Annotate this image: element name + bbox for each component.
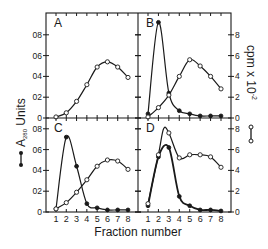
x-tick-label: 5 [187,214,192,224]
panel-label: A [54,16,62,30]
x-tick-label: 3 [166,214,171,224]
filled-data-point [219,114,223,118]
y-tick-label-left: 04 [33,71,43,81]
x-tick-label: 6 [198,214,203,224]
y-tick-label-right: 0 [235,207,240,217]
open-data-point [177,74,181,78]
open-data-point [74,190,78,194]
y-tick-label-left: 04 [33,165,43,175]
filled-data-point [198,208,202,212]
y-tick-label-right: 6 [235,145,240,155]
open-data-point [167,93,171,97]
filled-data-point [188,204,192,208]
ylabel-tail: Units [14,98,28,129]
ylabel-right-sup: -2 [251,94,258,100]
open-data-point [116,65,120,69]
panel-c: 12345678002040608C [33,118,141,224]
panel-d: 1234567802468D [135,118,240,224]
y-tick-label-left: 0 [37,113,42,123]
open-data-point [64,111,68,115]
y-tick-label-right: 4 [235,165,240,175]
x-tick-label: 1 [145,214,150,224]
open-data-point [198,64,202,68]
panel-b: 02468B [135,13,240,123]
cpm-curve [148,127,221,204]
open-data-point [64,201,68,205]
open-data-point [105,60,109,64]
open-data-point [208,74,212,78]
open-data-point [54,207,58,211]
open-data-point [146,202,150,206]
x-tick-label: 7 [115,214,120,224]
open-data-point [156,153,160,157]
filled-data-point [209,114,213,118]
filled-data-point [209,208,213,212]
filled-data-point [75,164,79,168]
y-tick-label-left: 02 [33,92,43,102]
x-tick-label: 1 [53,214,58,224]
right-axis-label: cpm x 10-2 [244,45,258,143]
open-data-point [177,156,181,160]
left-axis-label: A280 Units [14,98,28,167]
filled-data-point [64,135,68,139]
open-data-point [105,158,109,162]
y-tick-label-left: 06 [33,51,43,61]
y-tick-label-right: 6 [235,51,240,61]
open-data-point [219,87,223,91]
y-tick-label-left: 06 [33,145,43,155]
open-data-point [126,167,130,171]
filled-data-point [219,209,223,213]
a280-curve [148,22,221,116]
filled-data-point [126,208,130,212]
open-data-point [85,83,89,87]
open-data-point [85,178,89,182]
ylabel-right-main: cpm x 10 [244,45,258,94]
filled-data-point [95,206,99,210]
filled-data-point [157,20,161,24]
filled-data-point [106,208,110,212]
open-data-point [188,58,192,62]
x-tick-label: 4 [84,214,89,224]
x-tick-label: 4 [177,214,182,224]
open-data-point [167,131,171,135]
panel-label: B [146,16,154,30]
svg-text:A280 Units: A280 Units [14,98,28,147]
y-tick-label-right: 8 [235,30,240,40]
open-data-point [95,65,99,69]
filled-data-point [177,195,181,199]
x-tick-label: 2 [156,214,161,224]
panels-group: 002040608A02468B12345678002040608C123456… [33,13,240,224]
filled-data-point [188,112,192,116]
panel-label: C [54,121,63,135]
panel-label: D [146,121,155,135]
open-data-point [156,106,160,110]
figure: 002040608A02468B12345678002040608C123456… [0,0,268,249]
ylabel-main: A [14,139,28,147]
filled-circle-legend-icon [19,151,23,155]
x-tick-label: 8 [218,214,223,224]
x-tick-label: 2 [64,214,69,224]
x-axis-label: Fraction number [94,225,181,239]
y-tick-label-left: 08 [33,30,43,40]
open-data-point [126,75,130,79]
y-tick-label-right: 2 [235,186,240,196]
y-tick-label-right: 2 [235,92,240,102]
open-data-point [188,153,192,157]
svg-text:cpm x 10-2: cpm x 10-2 [244,45,258,100]
x-tick-label: 5 [95,214,100,224]
open-data-point [219,165,223,169]
cpm-curve [56,62,128,117]
open-data-point [116,159,120,163]
open-circle-legend-icon [249,125,253,129]
panel-a: 002040608A [33,13,141,123]
y-tick-label-left: 0 [37,207,42,217]
filled-data-point [198,114,202,118]
y-tick-label-left: 02 [33,186,43,196]
y-tick-label-right: 8 [235,124,240,134]
filled-data-point [85,202,89,206]
x-tick-label: 6 [105,214,110,224]
open-data-point [198,153,202,157]
y-tick-label-right: 4 [235,71,240,81]
x-tick-label: 8 [125,214,130,224]
y-tick-label-right: 0 [235,113,240,123]
